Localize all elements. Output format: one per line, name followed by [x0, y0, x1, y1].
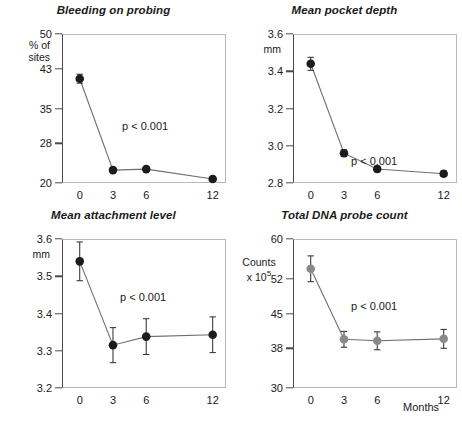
- data-point-marker: [373, 337, 382, 346]
- data-point-marker: [142, 165, 151, 174]
- p-value-annotation: p < 0.001: [120, 291, 166, 303]
- y-axis-tick-label: 3.2: [14, 382, 52, 394]
- x-axis-tick-label: 0: [308, 189, 314, 201]
- x-axis-tick-label: 12: [207, 394, 219, 406]
- data-point-marker: [306, 265, 315, 274]
- data-point-marker: [142, 332, 151, 341]
- y-axis-tick-mark: [55, 276, 62, 277]
- data-point-group: [373, 332, 382, 350]
- panel-mean-attachment-level: Mean attachment level mm 3.23.33.43.53.6…: [0, 205, 231, 417]
- data-point-marker: [75, 74, 84, 83]
- x-axis-tick-label: 3: [341, 394, 347, 406]
- y-axis-tick-mark: [286, 33, 293, 34]
- y-axis-tick-mark: [55, 68, 62, 69]
- y-axis-tick-label: 3.2: [245, 103, 283, 115]
- data-point-marker: [340, 149, 349, 158]
- y-axis-tick-label: 3.4: [245, 65, 283, 77]
- y-axis-tick-mark: [55, 108, 62, 109]
- y-axis-tick-mark: [55, 33, 62, 34]
- y-axis-tick-label: 60: [245, 233, 283, 245]
- y-axis-tick-label: 3.5: [14, 270, 52, 282]
- y-axis-tick-label: 3.6: [14, 233, 52, 245]
- data-point-group: [142, 165, 151, 174]
- p-value-annotation: p < 0.001: [351, 155, 397, 167]
- y-axis-tick-label: 35: [14, 103, 52, 115]
- y-axis-tick-mark: [286, 348, 293, 349]
- data-point-marker: [439, 169, 448, 178]
- y-axis-tick-label: 50: [14, 28, 52, 40]
- data-point-marker: [75, 257, 84, 266]
- data-point-marker: [208, 175, 217, 184]
- data-point-group: [306, 256, 315, 282]
- x-axis-tick-label: 3: [110, 189, 116, 201]
- data-point-group: [439, 169, 448, 178]
- data-point-marker: [208, 330, 217, 339]
- y-axis-tick-mark: [55, 313, 62, 314]
- x-axis-tick-label: 12: [438, 189, 450, 201]
- y-axis-tick-mark: [55, 350, 62, 351]
- p-value-annotation: p < 0.001: [122, 120, 168, 132]
- data-point-group: [439, 329, 448, 348]
- x-axis-tick-label: 6: [374, 189, 380, 201]
- y-axis-tick-label: 30: [245, 382, 283, 394]
- data-point-marker: [109, 341, 118, 350]
- data-point-group: [340, 149, 349, 158]
- y-axis-tick-mark: [55, 143, 62, 144]
- figure-container: Bleeding on probing % of sites 202835435…: [0, 0, 462, 425]
- x-axis-tick-label: 3: [110, 394, 116, 406]
- data-point-group: [142, 319, 151, 355]
- y-axis-tick-mark: [55, 387, 62, 388]
- data-point-marker: [306, 60, 315, 69]
- x-axis-tick-label: 0: [308, 394, 314, 406]
- panel-total-dna-probe-count: Total DNA probe count Counts x 105 Month…: [231, 205, 462, 417]
- x-axis-tick-label: 6: [143, 189, 149, 201]
- data-point-group: [109, 328, 118, 363]
- y-axis-tick-mark: [286, 387, 293, 388]
- y-axis-tick-label: 3.4: [14, 308, 52, 320]
- y-axis-tick-mark: [286, 313, 293, 314]
- data-point-group: [109, 166, 118, 175]
- y-axis-tick-mark: [286, 182, 293, 183]
- data-point-marker: [109, 166, 118, 175]
- x-axis-tick-label: 3: [341, 189, 347, 201]
- y-axis-tick-label: 2.8: [245, 177, 283, 189]
- y-axis-tick-label: 28: [14, 137, 52, 149]
- y-axis-tick-mark: [286, 108, 293, 109]
- x-axis-tick-label: 0: [77, 189, 83, 201]
- data-point-marker: [439, 335, 448, 344]
- data-point-group: [75, 74, 84, 83]
- data-point-group: [75, 242, 84, 281]
- y-axis-tick-mark: [55, 182, 62, 183]
- panel-mean-pocket-depth: Mean pocket depth mm 2.83.03.23.43.60361…: [231, 0, 462, 212]
- data-point-group: [208, 317, 217, 353]
- data-point-group: [208, 175, 217, 184]
- y-axis-tick-label: 3.3: [14, 345, 52, 357]
- y-axis-tick-mark: [286, 278, 293, 279]
- data-point-marker: [340, 335, 349, 344]
- y-axis-tick-label: 52: [245, 273, 283, 285]
- y-axis-tick-label: 20: [14, 177, 52, 189]
- y-axis-tick-mark: [286, 145, 293, 146]
- y-axis-tick-label: 43: [14, 63, 52, 75]
- x-axis-tick-label: 6: [374, 394, 380, 406]
- x-axis-tick-label: 6: [143, 394, 149, 406]
- y-axis-tick-label: 3.6: [245, 28, 283, 40]
- x-axis-tick-label: 12: [207, 189, 219, 201]
- panel-bleeding-on-probing: Bleeding on probing % of sites 202835435…: [0, 0, 231, 212]
- data-point-group: [306, 57, 315, 70]
- y-axis-tick-label: 38: [245, 342, 283, 354]
- p-value-annotation: p < 0.001: [351, 300, 397, 312]
- y-axis-tick-mark: [286, 71, 293, 72]
- y-axis-tick-mark: [55, 238, 62, 239]
- y-axis-tick-mark: [286, 238, 293, 239]
- y-axis-tick-label: 3.0: [245, 140, 283, 152]
- x-axis-tick-label: 0: [77, 394, 83, 406]
- y-axis-tick-label: 45: [245, 308, 283, 320]
- x-axis-tick-label: 12: [438, 394, 450, 406]
